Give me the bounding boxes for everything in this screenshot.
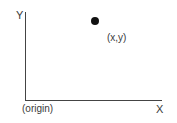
y-axis-label: Y <box>16 10 23 20</box>
x-axis-line <box>25 100 162 101</box>
point-coordinate-label: (x,y) <box>107 33 126 43</box>
x-axis-label: X <box>156 104 163 114</box>
y-axis-line <box>25 12 26 101</box>
origin-label: (origin) <box>22 104 53 114</box>
data-point-dot <box>91 17 99 25</box>
